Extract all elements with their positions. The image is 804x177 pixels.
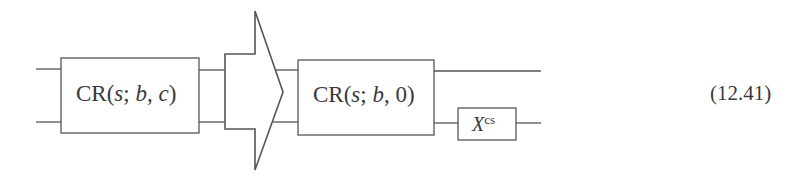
equation-number: (12.41) xyxy=(710,81,771,106)
param-b: b xyxy=(135,81,147,106)
cr-gate-label-right: CR(s; b, 0) xyxy=(313,82,415,108)
param-c: c xyxy=(158,81,168,106)
x-gate-superscript: cs xyxy=(484,112,495,127)
x-gate-base: X xyxy=(472,113,484,135)
param-s: s xyxy=(114,81,123,106)
x-gate-label: Xcs xyxy=(472,112,495,136)
cr-gate-label-left: CR(s; b, c) xyxy=(76,81,176,107)
param-s: s xyxy=(351,82,360,107)
param-b: b xyxy=(372,82,384,107)
gate-name: CR xyxy=(76,81,107,106)
gate-name: CR xyxy=(313,82,344,107)
param-zero: 0 xyxy=(395,82,407,107)
equivalence-arrow-icon xyxy=(225,11,283,170)
